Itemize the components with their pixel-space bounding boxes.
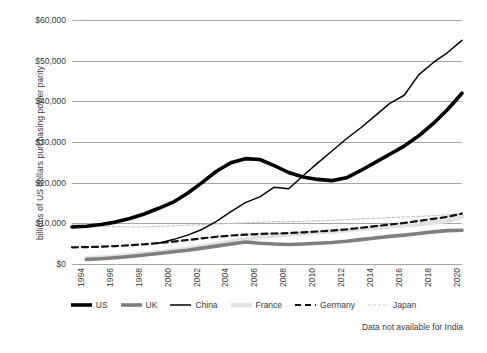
legend-item-uk[interactable]: UK: [121, 300, 158, 310]
legend-swatch-japan-icon: [368, 300, 389, 310]
legend-label: Japan: [393, 300, 416, 310]
x-axis-tick-label: 2000: [163, 268, 173, 287]
plot-area: $0$10,000$20,000$30,000$40,000$50,000$60…: [72, 20, 462, 264]
y-axis-tick-label: $0: [57, 259, 66, 269]
legend-swatch-uk-icon: [121, 300, 142, 310]
legend-swatch-us-icon: [71, 300, 92, 310]
x-axis-tick-label: 2014: [365, 268, 375, 287]
x-axis-tick-label: 2012: [336, 268, 346, 287]
x-axis-tick-label: 2020: [452, 268, 462, 287]
x-axis-tick-label: 2016: [394, 268, 404, 287]
x-axis-tick-label: 2006: [249, 268, 259, 287]
series-line-us: [72, 93, 462, 227]
x-axis-tick-label: 1994: [76, 268, 86, 287]
legend-item-france[interactable]: France: [231, 300, 282, 310]
y-axis-tick-label: $40,000: [35, 96, 66, 106]
legend-swatch-china-icon: [170, 300, 191, 310]
x-axis-tick-label: 1998: [134, 268, 144, 287]
y-axis-tick-label: $20,000: [35, 178, 66, 188]
line-chart: billions of US dollars purchasing power …: [0, 0, 487, 353]
gridline: [72, 264, 462, 265]
data-availability-note: Data not available for India: [362, 322, 463, 332]
x-axis-tick-label: 2018: [423, 268, 433, 287]
chart-legend: USUKChinaFranceGermanyJapan: [0, 300, 487, 310]
legend-item-us[interactable]: US: [71, 300, 108, 310]
y-axis-tick-label: $10,000: [35, 218, 66, 228]
x-axis-tick-label: 2002: [192, 268, 202, 287]
series-line-china: [159, 40, 462, 243]
legend-label: Germany: [320, 300, 355, 310]
legend-item-germany[interactable]: Germany: [295, 300, 355, 310]
legend-item-china[interactable]: China: [170, 300, 217, 310]
x-axis-tick-label: 2004: [220, 268, 230, 287]
y-axis-tick-label: $30,000: [35, 137, 66, 147]
x-axis-tick-label: 2010: [307, 268, 317, 287]
legend-label: US: [96, 300, 108, 310]
y-axis-tick-label: $50,000: [35, 56, 66, 66]
legend-label: France: [256, 300, 282, 310]
x-axis-tick-label: 2008: [278, 268, 288, 287]
series-lines: [72, 20, 462, 264]
legend-label: China: [195, 300, 217, 310]
legend-swatch-germany-icon: [295, 300, 316, 310]
legend-label: UK: [146, 300, 158, 310]
legend-item-japan[interactable]: Japan: [368, 300, 416, 310]
y-axis-tick-label: $60,000: [35, 15, 66, 25]
x-axis-tick-label: 1996: [105, 268, 115, 287]
legend-swatch-france-icon: [231, 300, 252, 310]
